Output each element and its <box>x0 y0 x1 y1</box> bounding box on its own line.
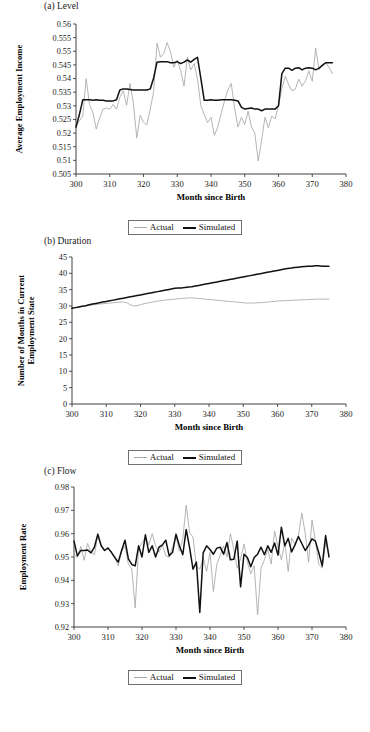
svg-text:0.515: 0.515 <box>53 143 71 152</box>
legend-label-actual: Actual <box>150 672 174 683</box>
legend-swatch-actual-icon <box>134 227 147 228</box>
series-simulated <box>76 57 333 127</box>
svg-text:330: 330 <box>168 409 181 419</box>
svg-text:0.525: 0.525 <box>53 115 71 124</box>
figure-employment-panels: (a) Level 0.5050.510.5150.520.5250.530.5… <box>0 0 370 732</box>
svg-text:320: 320 <box>137 179 150 189</box>
svg-text:0.94: 0.94 <box>55 576 69 585</box>
svg-text:370: 370 <box>306 179 319 189</box>
svg-text:0.96: 0.96 <box>55 530 69 539</box>
svg-text:360: 360 <box>271 409 284 419</box>
legend-label-simulated: Simulated <box>199 672 236 683</box>
svg-text:35: 35 <box>59 286 67 295</box>
series-actual <box>72 298 329 308</box>
svg-text:0.56: 0.56 <box>57 20 71 29</box>
series-simulated <box>72 266 329 308</box>
panel-b-plot: 0510152025303540453003103203303403503603… <box>0 249 370 449</box>
svg-text:25: 25 <box>59 318 67 327</box>
svg-text:0.535: 0.535 <box>53 88 71 97</box>
panel-a-legend: Actual Simulated <box>0 220 370 235</box>
svg-text:40: 40 <box>59 269 67 278</box>
svg-text:5: 5 <box>63 384 67 393</box>
legend-item-actual: Actual <box>134 222 174 233</box>
svg-text:0.505: 0.505 <box>53 170 71 179</box>
svg-text:0.54: 0.54 <box>57 74 71 83</box>
legend-label-actual: Actual <box>150 452 174 463</box>
panel-duration: (b) Duration 051015202530354045300310320… <box>0 235 370 465</box>
panel-a-title: (a) Level <box>0 0 370 14</box>
legend-item-simulated: Simulated <box>183 222 236 233</box>
svg-text:45: 45 <box>59 253 67 262</box>
svg-text:0: 0 <box>63 400 67 409</box>
svg-text:0.95: 0.95 <box>55 553 69 562</box>
svg-text:20: 20 <box>59 335 67 344</box>
svg-text:380: 380 <box>340 632 353 642</box>
svg-text:10: 10 <box>59 367 67 376</box>
panel-b-title: (b) Duration <box>0 235 370 249</box>
legend-item-actual: Actual <box>134 672 174 683</box>
svg-text:380: 380 <box>340 409 353 419</box>
svg-text:300: 300 <box>66 409 79 419</box>
legend-swatch-simulated-icon <box>183 227 196 229</box>
svg-text:330: 330 <box>171 179 184 189</box>
svg-text:0.52: 0.52 <box>57 129 71 138</box>
svg-text:310: 310 <box>102 632 115 642</box>
legend-label-simulated: Simulated <box>199 452 236 463</box>
svg-text:310: 310 <box>103 179 116 189</box>
svg-text:Month since Birth: Month since Birth <box>176 645 245 655</box>
svg-text:330: 330 <box>170 632 183 642</box>
svg-text:340: 340 <box>204 632 217 642</box>
figure-footnote <box>0 685 370 695</box>
series-actual <box>76 43 333 161</box>
legend-label-simulated: Simulated <box>199 222 236 233</box>
panel-c-plot: 0.920.930.940.950.960.970.98300310320330… <box>0 479 370 669</box>
svg-text:Month since Birth: Month since Birth <box>177 192 246 202</box>
legend-swatch-actual-icon <box>134 457 147 458</box>
svg-text:0.53: 0.53 <box>57 102 71 111</box>
svg-text:Month since Birth: Month since Birth <box>175 422 244 432</box>
svg-text:370: 370 <box>305 409 318 419</box>
svg-text:310: 310 <box>100 409 113 419</box>
panel-c-legend: Actual Simulated <box>0 670 370 685</box>
svg-text:350: 350 <box>238 179 251 189</box>
svg-text:0.555: 0.555 <box>53 34 71 43</box>
legend-item-simulated: Simulated <box>183 672 236 683</box>
panel-c-svg: 0.920.930.940.950.960.970.98300310320330… <box>0 479 370 669</box>
legend-item-simulated: Simulated <box>183 452 236 463</box>
svg-text:300: 300 <box>70 179 83 189</box>
svg-text:0.92: 0.92 <box>55 623 69 632</box>
svg-text:360: 360 <box>272 632 285 642</box>
svg-text:Average Employment Income: Average Employment Income <box>14 44 24 153</box>
svg-text:350: 350 <box>238 632 251 642</box>
panel-a-svg: 0.5050.510.5150.520.5250.530.5350.540.54… <box>0 14 370 219</box>
panel-level: (a) Level 0.5050.510.5150.520.5250.530.5… <box>0 0 370 235</box>
svg-text:370: 370 <box>306 632 319 642</box>
svg-text:Employment Rate: Employment Rate <box>18 524 28 591</box>
svg-text:15: 15 <box>59 351 67 360</box>
svg-text:340: 340 <box>203 409 216 419</box>
svg-text:360: 360 <box>272 179 285 189</box>
svg-text:Number of Months in CurrentEmp: Number of Months in CurrentEmployment St… <box>16 275 36 387</box>
series-actual <box>74 505 329 615</box>
series-simulated <box>74 527 329 612</box>
legend-item-actual: Actual <box>134 452 174 463</box>
svg-text:0.55: 0.55 <box>57 47 71 56</box>
svg-text:30: 30 <box>59 302 67 311</box>
svg-text:320: 320 <box>136 632 149 642</box>
panel-b-legend: Actual Simulated <box>0 450 370 465</box>
legend-swatch-simulated-icon <box>183 677 196 679</box>
svg-text:0.98: 0.98 <box>55 483 69 492</box>
panel-a-plot: 0.5050.510.5150.520.5250.530.5350.540.54… <box>0 14 370 219</box>
panel-b-svg: 0510152025303540453003103203303403503603… <box>0 249 370 449</box>
legend-label-actual: Actual <box>150 222 174 233</box>
svg-text:300: 300 <box>68 632 81 642</box>
svg-text:320: 320 <box>134 409 147 419</box>
svg-text:340: 340 <box>205 179 218 189</box>
legend-swatch-actual-icon <box>134 677 147 678</box>
panel-flow: (c) Flow 0.920.930.940.950.960.970.98300… <box>0 465 370 685</box>
panel-c-title: (c) Flow <box>0 465 370 479</box>
svg-text:0.93: 0.93 <box>55 600 69 609</box>
svg-text:380: 380 <box>340 179 353 189</box>
svg-text:0.97: 0.97 <box>55 506 69 515</box>
svg-text:350: 350 <box>237 409 250 419</box>
